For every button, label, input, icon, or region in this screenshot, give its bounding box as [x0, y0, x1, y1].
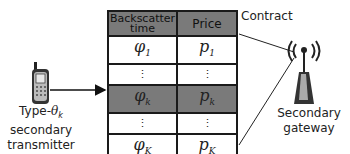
mobile-phone-icon	[30, 62, 52, 106]
header-backscatter-time: Backscatter time	[108, 11, 177, 36]
cell-p-k: pk	[177, 85, 237, 113]
table-row-highlighted: φk pk	[108, 85, 237, 113]
cell-ellipsis: ⋮	[108, 113, 177, 134]
gateway-label-line1: Secondary	[268, 106, 350, 121]
cell-phi-K: φK	[108, 134, 177, 154]
header-price: Price	[177, 11, 237, 36]
cell-p-K: pK	[177, 134, 237, 154]
transmitter-label-line3: transmitter	[0, 138, 82, 153]
line-contract-top	[239, 34, 294, 52]
cell-ellipsis: ⋮	[177, 113, 237, 134]
cell-ellipsis: ⋮	[108, 64, 177, 85]
table-row: φK pK	[108, 134, 237, 154]
table-row-ellipsis: ⋮ ⋮	[108, 113, 237, 134]
transmitter-label-line2: secondary	[0, 123, 82, 138]
contract-table: Backscatter time Price φ1 p1 ⋮ ⋮ φk pk ⋮…	[107, 10, 238, 154]
transmitter-label: Type-θk secondary transmitter	[0, 104, 82, 153]
gateway-label-line2: gateway	[268, 121, 350, 136]
cell-phi-k: φk	[108, 85, 177, 113]
contract-label: Contract	[241, 9, 293, 24]
table-row-ellipsis: ⋮ ⋮	[108, 64, 237, 85]
transmitter-type-label: Type-θk	[0, 104, 82, 123]
table-row: φ1 p1	[108, 36, 237, 64]
cell-phi-1: φ1	[108, 36, 177, 64]
cell-p-1: p1	[177, 36, 237, 64]
gateway-label: Secondary gateway	[268, 106, 350, 136]
antenna-tower-icon	[287, 40, 321, 106]
cell-ellipsis: ⋮	[177, 64, 237, 85]
table-header-row: Backscatter time Price	[108, 11, 237, 36]
